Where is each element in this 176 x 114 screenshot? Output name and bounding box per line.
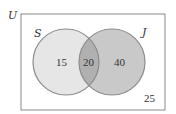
set-j-label: J bbox=[140, 26, 147, 39]
universe-label: U bbox=[8, 9, 18, 22]
intersection-count: 20 bbox=[83, 56, 95, 68]
set-s-only-count: 15 bbox=[56, 56, 68, 68]
outside-count: 25 bbox=[144, 92, 156, 104]
set-s-label: S bbox=[34, 27, 42, 40]
set-j-only-count: 40 bbox=[114, 56, 126, 68]
venn-diagram: U S J 15 20 40 25 bbox=[0, 0, 176, 114]
